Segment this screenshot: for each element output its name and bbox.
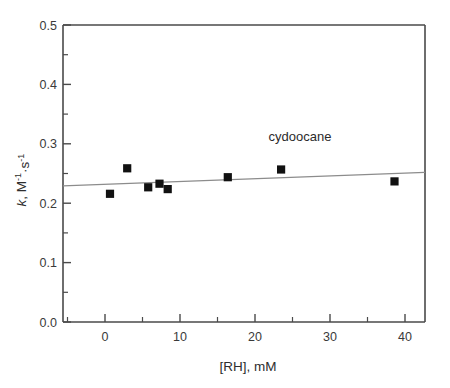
y-tick-label: 0.4 (40, 78, 57, 92)
x-axis-title: [RH], mM (220, 359, 277, 374)
x-tick-label: 30 (323, 330, 337, 344)
y-axis-title-unit1: , M (14, 181, 29, 200)
data-point (106, 190, 114, 198)
y-axis-title-unit2: ·s (17, 161, 32, 172)
data-point (144, 183, 152, 191)
x-tick-label: 40 (398, 330, 412, 344)
data-point (277, 165, 285, 173)
y-tick-label: 0.3 (40, 137, 57, 151)
y-tick-label: 0.2 (40, 197, 57, 211)
chart-figure: 0.0 0.1 0.2 0.3 0.4 0.5 0 10 20 (0, 0, 450, 388)
y-axis-title-exp1: -1 (13, 173, 23, 181)
y-tick-label: 0.5 (40, 19, 57, 33)
data-point (155, 180, 163, 188)
figure-background (0, 0, 450, 388)
y-tick-label: 0.1 (40, 256, 57, 270)
data-point (123, 164, 131, 172)
data-point (390, 177, 398, 185)
y-tick-label: 0.0 (40, 316, 57, 330)
data-point (224, 173, 232, 181)
y-axis-title-exp2: -1 (16, 154, 26, 162)
scatter-plot: 0.0 0.1 0.2 0.3 0.4 0.5 0 10 20 (0, 0, 450, 388)
x-tick-label: 20 (248, 330, 262, 344)
x-tick-label: 10 (173, 330, 187, 344)
series-annotation-label: cydoocane (269, 129, 332, 144)
x-tick-label: 0 (102, 330, 109, 344)
data-point (164, 185, 172, 193)
